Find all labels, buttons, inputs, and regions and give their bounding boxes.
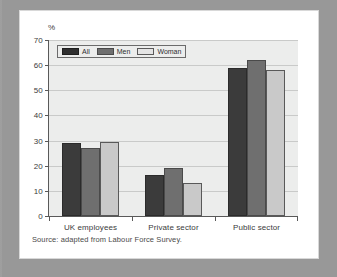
y-tick-label: 40 [34,111,43,120]
y-tick-mark [45,40,49,41]
y-tick-label: 70 [34,36,43,45]
legend-swatch-woman [137,48,154,55]
x-tick-mark [132,216,133,221]
y-tick-mark [45,141,49,142]
bar-men-0 [81,148,100,216]
source-note: Source: adapted from Labour Force Survey… [32,235,182,244]
gridline [49,40,298,41]
x-category-label: Private sector [148,223,198,232]
y-tick-mark [45,166,49,167]
bar-woman-0 [100,142,119,216]
x-category-label: Public sector [233,223,280,232]
x-tick-mark [49,216,50,221]
y-tick-label: 0 [38,212,43,221]
legend-entry-woman: Woman [137,48,181,55]
y-tick-mark [45,90,49,91]
bar-woman-1 [183,183,202,216]
y-axis-title: % [48,23,55,32]
y-tick-label: 10 [34,186,43,195]
x-category-label: UK employees [64,223,117,232]
legend-entry-all: All [62,48,90,55]
y-tick-mark [45,65,49,66]
y-tick-label: 30 [34,136,43,145]
legend-swatch-all [62,48,79,55]
bar-men-1 [164,168,183,216]
chart-legend: AllMenWoman [57,45,186,58]
y-tick-label: 20 [34,161,43,170]
bar-all-0 [62,143,81,216]
x-tick-mark [215,216,216,221]
plot-area: 010203040506070 UK employeesPrivate sect… [48,40,298,217]
figure-root: % 010203040506070 UK employeesPrivate se… [0,0,337,277]
x-tick-mark [297,216,298,221]
legend-swatch-men [97,48,114,55]
y-tick-label: 60 [34,61,43,70]
legend-entry-men: Men [97,48,131,55]
bar-all-1 [145,175,164,216]
y-tick-mark [45,115,49,116]
chart-card: % 010203040506070 UK employeesPrivate se… [20,11,318,258]
legend-label: All [82,48,90,55]
y-tick-mark [45,191,49,192]
bar-all-2 [228,68,247,216]
legend-label: Men [117,48,131,55]
bar-men-2 [247,60,266,216]
y-tick-label: 50 [34,86,43,95]
bar-woman-2 [266,70,285,216]
legend-label: Woman [157,48,181,55]
